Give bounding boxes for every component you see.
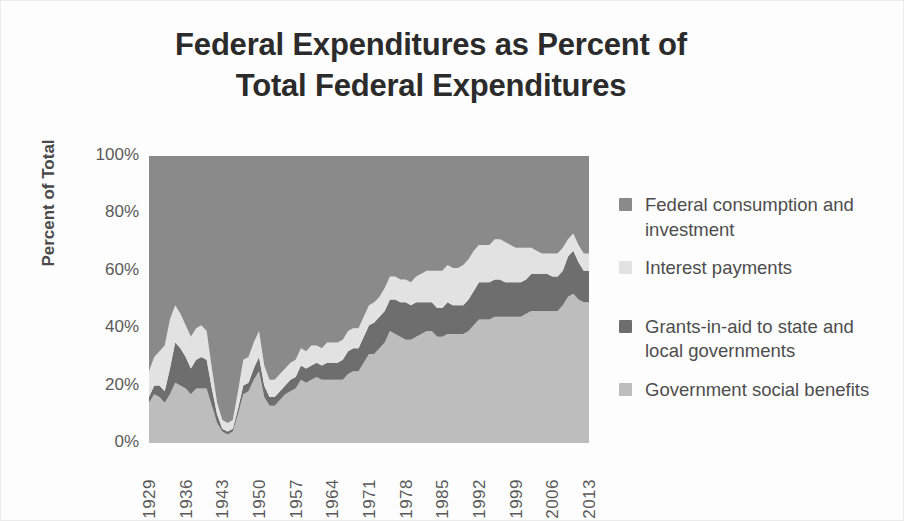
legend-item[interactable]: Interest payments [619,256,891,281]
legend-item[interactable]: Grants-in-aid to state and local governm… [619,315,891,364]
x-tick-label: 1943 [213,479,233,519]
x-axis-tick-labels: 1929193619431950195719641971197819851992… [149,449,589,519]
x-tick-label: 1957 [287,479,307,519]
x-tick-label: 2013 [580,479,600,519]
legend-item[interactable]: Federal consumption and investment [619,193,891,242]
x-tick-label: 1964 [323,479,343,519]
legend-swatch-federal-consumption [619,198,632,211]
plot-area [149,156,589,443]
y-tick-label: 0% [57,432,139,452]
chart-legend: Federal consumption and investmentIntere… [619,193,891,417]
x-tick-label: 1929 [140,479,160,519]
x-tick-label: 1971 [360,479,380,519]
x-tick-label: 2006 [543,479,563,519]
legend-item[interactable]: Government social benefits [619,378,891,403]
stacked-area-plot [149,156,589,443]
chart-figure: Federal Expenditures as Percent of Total… [0,0,904,521]
legend-swatch-grants-in-aid [619,320,632,333]
legend-item-label: Interest payments [645,256,792,281]
y-tick-label: 40% [57,317,139,337]
x-tick-label: 1936 [177,479,197,519]
x-tick-label: 1985 [433,479,453,519]
y-tick-label: 60% [57,260,139,280]
y-tick-label: 80% [57,202,139,222]
x-tick-label: 1999 [507,479,527,519]
y-tick-label: 20% [57,375,139,395]
x-tick-label: 1978 [397,479,417,519]
x-tick-label: 1992 [470,479,490,519]
legend-item-label: Government social benefits [645,378,869,403]
x-tick-label: 1950 [250,479,270,519]
legend-item-label: Federal consumption and investment [645,193,891,242]
legend-swatch-interest-payments [619,261,632,274]
y-tick-label: 100% [57,145,139,165]
legend-swatch-social-benefits [619,383,632,396]
legend-item-label: Grants-in-aid to state and local governm… [645,315,891,364]
